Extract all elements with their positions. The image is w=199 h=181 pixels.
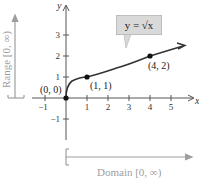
y-tick-label: 1 [56,72,61,82]
x-tick-label: 4 [148,102,153,112]
y-axis-label: y [56,0,62,11]
function-label: y = √x [125,19,154,31]
domain-label: Domain [0, ∞) [97,166,162,179]
x-axis [32,95,194,101]
x-axis-label: x [194,95,199,106]
point-origin [63,95,68,100]
range-label: Range [0, ∞) [0,31,13,88]
y-tick-label: 3 [56,30,61,40]
sqrt-function-graph: Range [0, ∞) x y −1 1 2 3 4 5 [0,0,199,181]
callout-pointer [124,34,131,48]
point-4-2 [147,53,152,58]
y-tick-label: 2 [56,51,61,61]
x-tick-label: 3 [127,102,132,112]
x-tick-label: 5 [169,102,174,112]
graph-canvas: Range [0, ∞) x y −1 1 2 3 4 5 [0,0,199,181]
domain-bracket [66,149,192,165]
function-callout: y = √x [116,15,162,35]
point-label-4-2: (4, 2) [148,60,170,72]
sqrt-curve [66,46,183,98]
point-label-origin: (0, 0) [40,84,62,96]
x-tick-label: 1 [85,102,90,112]
x-tick-label: −1 [38,102,48,112]
y-tick-label: −1 [50,114,60,124]
point-label-1-1: (1, 1) [90,80,112,92]
y-axis [63,5,69,140]
x-tick-label: 2 [106,102,111,112]
point-1-1 [84,74,89,79]
